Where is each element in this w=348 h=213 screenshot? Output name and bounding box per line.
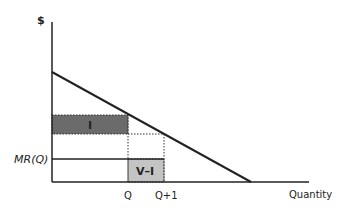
- mr-label: MR(Q): [14, 153, 48, 166]
- tick-q: Q: [124, 190, 132, 201]
- box-vi-label: V–I: [136, 165, 154, 178]
- y-axis-label: $: [37, 14, 45, 27]
- box-i-label: I: [88, 119, 92, 132]
- tick-q-plus-1: Q+1: [155, 190, 178, 201]
- x-axis-label: Quantity: [289, 189, 332, 200]
- demand-diagram: $ Quantity MR(Q) Q Q+1 I V–I: [0, 0, 348, 213]
